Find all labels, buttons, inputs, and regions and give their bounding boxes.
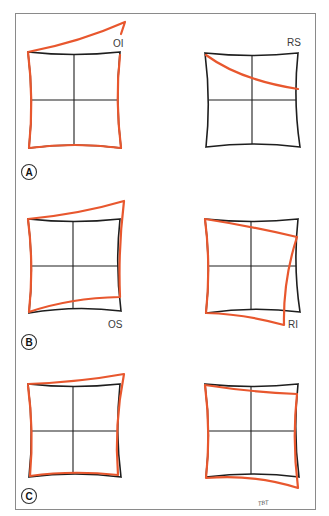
panel-b-left-grid <box>28 201 124 313</box>
artist-signature: TBT <box>258 499 270 506</box>
panel-c: C <box>22 374 300 504</box>
figure-frame <box>16 14 316 510</box>
panel-a-left-deviation <box>28 22 125 148</box>
tag-rs: RS <box>287 37 301 48</box>
panel-a-right-grid <box>205 53 300 147</box>
tag-oi: OI <box>113 38 124 49</box>
svg-text:B: B <box>25 337 32 348</box>
tag-ri: RI <box>288 319 298 330</box>
svg-text:A: A <box>25 167 32 178</box>
panel-b: OS RI B <box>22 201 301 350</box>
panel-label-c: C <box>22 489 37 504</box>
panel-b-right-grid <box>205 219 300 325</box>
panel-c-left-grid <box>28 374 124 477</box>
panel-b-left-deviation <box>28 201 124 312</box>
tag-os: OS <box>108 319 123 330</box>
panel-c-right-grid <box>205 384 299 488</box>
panel-a: OI RS A <box>22 22 302 180</box>
panel-label-a: A <box>22 165 37 180</box>
panel-c-left-deviation <box>28 374 124 476</box>
panel-label-b: B <box>22 335 37 350</box>
svg-text:C: C <box>25 491 32 502</box>
panel-a-left-grid <box>28 22 125 148</box>
hess-chart-figure: OI RS A OS RI <box>0 0 329 516</box>
